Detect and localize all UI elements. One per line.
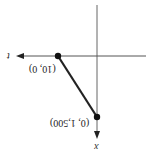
point-a-marker (55, 53, 61, 59)
x-axis-arrow-icon (94, 131, 100, 139)
t-axis-arrow-icon (16, 53, 24, 59)
point-b-marker (94, 114, 100, 120)
t-axis-label: t (7, 51, 10, 61)
line-segment (58, 56, 97, 117)
chart-figure (0, 0, 148, 163)
x-axis-label: x (94, 142, 98, 152)
point-a-label: (10, 0) (29, 64, 56, 74)
point-b-label: (0, 1,500) (50, 118, 89, 128)
